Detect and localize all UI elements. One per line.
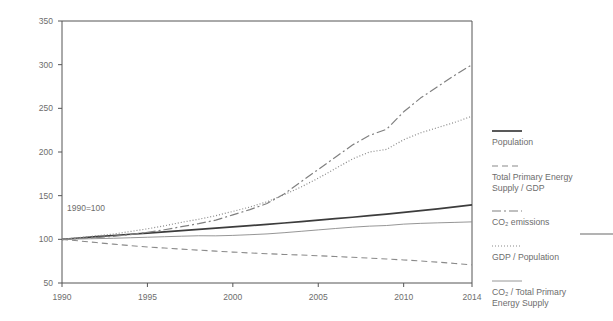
x-tick-label: 1995 <box>138 292 157 302</box>
data-series <box>62 65 472 265</box>
legend-label-1: Supply / GDP <box>492 183 545 193</box>
legend-label-1: Total Primary Energy <box>492 172 573 182</box>
legend-label-3: GDP / Population <box>492 252 559 262</box>
chart-figure: 50100150200250300350 1990199520002005201… <box>0 0 613 321</box>
x-axis-tick-labels: 199019952000200520102014 <box>53 292 482 302</box>
series-line-3 <box>62 116 472 239</box>
series-line-1 <box>62 239 472 264</box>
x-tick-label: 1990 <box>53 292 72 302</box>
chart-canvas: 50100150200250300350 1990199520002005201… <box>0 0 613 321</box>
legend-label-4: CO₂ / Total Primary <box>492 287 567 297</box>
series-line-2 <box>62 65 472 240</box>
plot-area: 50100150200250300350 1990199520002005201… <box>39 16 482 302</box>
y-tick-label: 350 <box>39 16 53 26</box>
x-tick-label: 2014 <box>463 292 482 302</box>
x-tick-label: 2010 <box>394 292 413 302</box>
y-tick-label: 50 <box>44 278 54 288</box>
chart-legend: PopulationTotal Primary EnergySupply / G… <box>492 131 573 308</box>
y-axis-tick-labels: 50100150200250300350 <box>39 16 53 288</box>
y-tick-label: 150 <box>39 191 53 201</box>
y-tick-label: 100 <box>39 234 53 244</box>
legend-label-0: Population <box>492 137 533 147</box>
y-tick-label: 250 <box>39 103 53 113</box>
legend-label-4: Energy Supply <box>492 298 549 308</box>
x-tick-label: 2000 <box>223 292 242 302</box>
legend-label-2: CO₂ emissions <box>492 217 550 227</box>
axis-spines <box>62 21 472 283</box>
y-tick-label: 300 <box>39 60 53 70</box>
x-tick-label: 2005 <box>309 292 328 302</box>
y-tick-label: 200 <box>39 147 53 157</box>
tick-marks <box>58 21 472 287</box>
baseline-annotation-label: 1990=100 <box>67 203 105 213</box>
axes <box>62 21 472 283</box>
baseline-annotation: 1990=100 <box>67 203 105 213</box>
